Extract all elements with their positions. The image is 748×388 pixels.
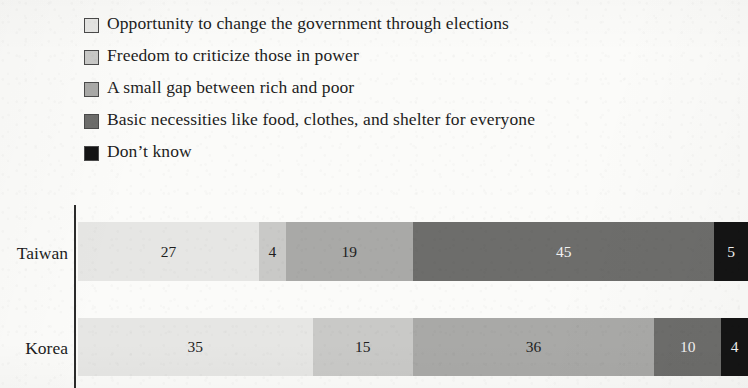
- bar-segment-value: 27: [161, 244, 177, 260]
- bar-segment-value: 36: [526, 339, 542, 355]
- bar-segment-value: 4: [268, 244, 276, 260]
- bar-segment-value: 15: [355, 339, 371, 355]
- bar-segment-value: 45: [556, 244, 572, 260]
- bar-segment-value: 5: [727, 244, 735, 260]
- bar-segment: 4: [721, 318, 748, 376]
- bar-segment: 35: [78, 318, 313, 376]
- bar-row-korea: 351536104: [78, 318, 748, 376]
- bar-segment: 36: [413, 318, 654, 376]
- bar-segment-value: 10: [680, 339, 696, 355]
- bar-segment: 5: [714, 222, 748, 281]
- bar-segment: 45: [413, 222, 715, 281]
- bar-segment-value: 4: [731, 339, 739, 355]
- bar-segment: 27: [78, 222, 259, 281]
- bar-segment: 10: [654, 318, 721, 376]
- category-label-taiwan: Taiwan: [0, 245, 68, 263]
- category-label-korea: Korea: [0, 340, 68, 358]
- bar-segment-value: 19: [342, 244, 358, 260]
- bar-segment: 15: [313, 318, 414, 376]
- bar-segment: 4: [259, 222, 286, 281]
- stacked-bar-chart: Taiwan Korea 27419455 351536104: [0, 0, 748, 388]
- y-axis-line: [74, 205, 76, 388]
- bar-row-taiwan: 27419455: [78, 222, 748, 281]
- bar-segment: 19: [286, 222, 413, 281]
- bar-segment-value: 35: [188, 339, 204, 355]
